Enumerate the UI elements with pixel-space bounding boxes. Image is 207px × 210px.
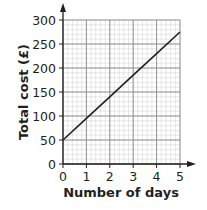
- y-tick-label: 100: [32, 109, 56, 124]
- y-tick-label: 50: [40, 133, 56, 148]
- x-axis-arrow-icon: [187, 161, 196, 167]
- x-tick-label: 1: [82, 169, 90, 184]
- y-axis-title: Total cost (£): [16, 44, 31, 140]
- x-tick-label: 2: [106, 169, 114, 184]
- y-tick-label: 200: [32, 61, 56, 76]
- x-axis-title: Number of days: [63, 185, 179, 200]
- x-tick-label: 0: [59, 169, 67, 184]
- x-tick-label: 4: [153, 169, 161, 184]
- y-axis-arrow-icon: [60, 3, 66, 12]
- data-line: [63, 32, 180, 140]
- x-tick-label: 3: [129, 169, 137, 184]
- major-grid: [63, 20, 180, 164]
- x-tick-label: 5: [176, 169, 184, 184]
- y-tick-label: 250: [32, 37, 56, 52]
- axes: [60, 3, 196, 167]
- line-chart: 012345050100150200250300 Number of days …: [0, 0, 207, 210]
- y-tick-label: 0: [48, 157, 56, 172]
- y-tick-label: 300: [32, 13, 56, 28]
- y-tick-label: 150: [32, 85, 56, 100]
